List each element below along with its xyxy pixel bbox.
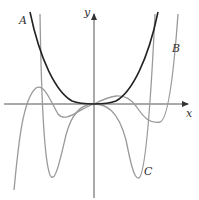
label-a: A xyxy=(18,14,27,27)
curve-c xyxy=(40,14,155,178)
label-y: y xyxy=(83,6,91,19)
graph: y x A B C xyxy=(0,0,199,200)
label-x: x xyxy=(186,107,193,120)
label-b: B xyxy=(171,42,180,55)
label-c: C xyxy=(144,165,153,178)
